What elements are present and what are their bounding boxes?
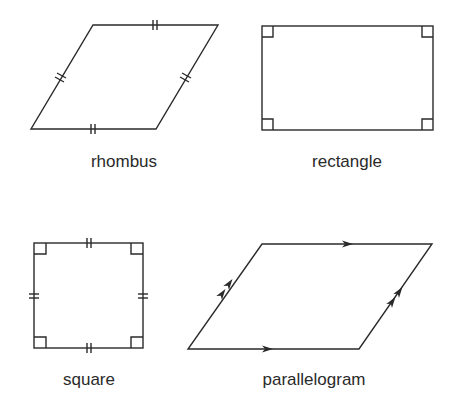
rectangle-label: rectangle [312,153,382,170]
right-angle-marks [262,26,433,130]
parallelogram-label: parallelogram [263,371,366,388]
parallel-double-arrows [216,277,405,308]
square-label: square [63,371,115,388]
right-angle-marks [34,243,143,348]
rhombus-label: rhombus [91,153,157,170]
rectangle-shape [262,26,433,130]
rhombus-shape [31,20,218,134]
parallelogram-shape [188,244,432,349]
square-shape [29,238,148,353]
quadrilaterals-diagram [0,0,468,408]
parallel-arrows [262,241,353,353]
